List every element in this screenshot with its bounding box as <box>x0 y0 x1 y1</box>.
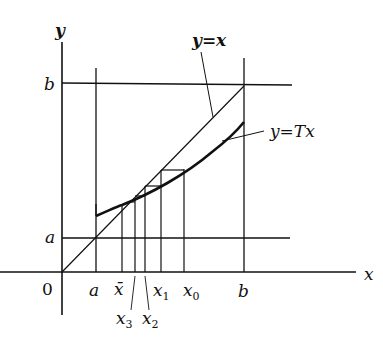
x-tick-x3: x3 <box>116 308 133 331</box>
identity-line <box>62 86 244 272</box>
map-leader <box>222 131 264 141</box>
y-axis-label: y <box>54 20 66 40</box>
svg-text:x0: x0 <box>183 280 200 303</box>
x-tick-xbar: x̄ <box>114 279 124 299</box>
origin-label: 0 <box>42 279 53 299</box>
svg-text:x2: x2 <box>142 308 159 331</box>
identity-label: y=x <box>191 30 227 50</box>
y-tick-b: b <box>44 74 55 94</box>
fixed-point-diagram: y x 0 b a a x̄ x3 x2 x1 x0 b y=x y=Tx <box>0 0 383 351</box>
x-tick-x2: x2 <box>142 308 159 331</box>
svg-text:x1: x1 <box>153 280 170 303</box>
y-tick-a: a <box>45 227 55 247</box>
x-tick-x0: x0 <box>183 280 200 303</box>
x-axis-label: x <box>364 264 374 284</box>
x2-leader <box>145 276 149 310</box>
x-tick-x1: x1 <box>153 280 170 303</box>
map-label: y=Tx <box>269 121 315 141</box>
svg-text:x3: x3 <box>116 308 133 331</box>
x-tick-b: b <box>238 281 249 301</box>
x3-leader <box>131 276 135 310</box>
x-tick-a: a <box>89 280 99 300</box>
map-curve <box>96 122 244 216</box>
